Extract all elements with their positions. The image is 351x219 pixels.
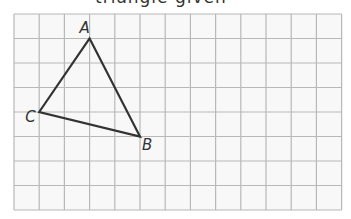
grid-diagram: [0, 0, 351, 219]
vertex-label-a: A: [80, 19, 90, 37]
vertex-label-b: B: [142, 136, 152, 154]
square-grid: [14, 14, 342, 210]
vertex-label-c: C: [25, 108, 35, 126]
